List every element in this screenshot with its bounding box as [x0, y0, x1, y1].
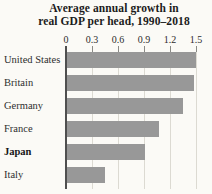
- gridline: [196, 52, 197, 189]
- bar-france: [67, 121, 159, 137]
- axis-tick-label: 1.5: [190, 34, 203, 45]
- bar-germany: [67, 98, 183, 114]
- bar-britain: [67, 75, 194, 91]
- axis-tick-label: 0.3: [86, 34, 99, 45]
- gridline: [170, 52, 171, 189]
- bar-japan: [67, 144, 145, 160]
- chart-title-line-1: Average annual growth in: [20, 2, 208, 15]
- category-label-britain: Britain: [4, 75, 66, 91]
- category-label-united-states: United States: [4, 52, 66, 68]
- axis-tick-label: 0.6: [112, 34, 125, 45]
- bar-united-states: [67, 52, 196, 68]
- axis-tick-label: 1.2: [164, 34, 177, 45]
- category-label-italy: Italy: [4, 167, 66, 183]
- chart-title: Average annual growth in real GDP per he…: [20, 2, 208, 28]
- axis-tick-mark: [196, 46, 197, 52]
- axis-tick-label: 0: [64, 34, 69, 45]
- category-label-germany: Germany: [4, 98, 66, 114]
- bar-italy: [67, 167, 105, 183]
- category-label-japan: Japan: [4, 144, 66, 160]
- chart-title-line-2: real GDP per head, 1990–2018: [20, 15, 208, 28]
- axis-tick-label: 0.9: [138, 34, 151, 45]
- bar-chart-figure: Average annual growth in real GDP per he…: [0, 0, 212, 194]
- category-label-france: France: [4, 121, 66, 137]
